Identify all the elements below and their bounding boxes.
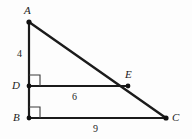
vertex-dot-b: [27, 116, 32, 121]
segment-ac: [29, 22, 166, 118]
geometry-canvas: [0, 0, 192, 139]
measure-label-ad: 4: [17, 49, 22, 59]
vertex-label-c: C: [172, 112, 179, 123]
geometry-figure: A D B C E 4 6 9: [0, 0, 192, 139]
vertex-label-d: D: [12, 80, 20, 91]
vertex-dot-e: [126, 84, 131, 89]
measure-label-de: 6: [72, 92, 77, 102]
vertex-label-e: E: [125, 69, 132, 80]
measure-label-bc: 9: [93, 124, 98, 134]
vertex-dot-c: [163, 115, 168, 120]
vertex-dot-d: [27, 84, 32, 89]
vertex-label-a: A: [24, 5, 31, 16]
vertex-dot-a: [26, 19, 31, 24]
vertex-label-b: B: [13, 112, 20, 123]
